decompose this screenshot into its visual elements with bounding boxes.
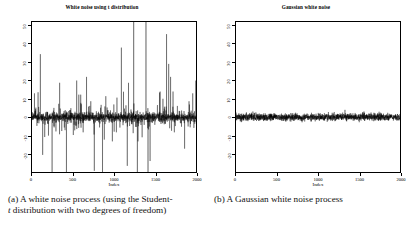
figure-two-panel: White noise using t distribution 5040302… (0, 0, 408, 234)
y-tick-label: 20 (24, 80, 29, 85)
y-tick-label: -10 (24, 135, 29, 141)
caption-a-line2: distribution with two degrees of freedom… (11, 205, 167, 215)
x-axis-title-a: Index (31, 182, 197, 188)
caption-b: (b) A Gaussian white noise process (214, 194, 406, 205)
y-tick-label: 30 (228, 61, 233, 66)
caption-a: (a) A white noise process (using the Stu… (8, 194, 200, 217)
plot-title-a: White noise using t distribution (0, 4, 204, 11)
y-tick-label: 10 (228, 98, 233, 103)
panel-a-white-noise-t: White noise using t distribution 5040302… (0, 0, 204, 234)
y-tick-label: 50 (24, 24, 29, 29)
x-tick-mark (401, 173, 402, 176)
y-axis-b: 50403020100-10-20 (204, 21, 235, 173)
series-line-a (32, 22, 196, 172)
series-path (236, 110, 400, 122)
x-tick-mark (73, 173, 74, 176)
x-tick-mark (156, 173, 157, 176)
y-tick-label: 0 (24, 117, 29, 119)
x-tick-mark (318, 173, 319, 176)
x-tick-mark (31, 173, 32, 176)
y-tick-label: -20 (228, 154, 233, 160)
y-tick-label: 10 (24, 98, 29, 103)
x-tick-mark (114, 173, 115, 176)
plot-title-b: Gaussian white noise (204, 4, 408, 11)
y-tick-label: 0 (228, 117, 233, 119)
plot-area-a (31, 21, 197, 173)
y-tick-label: 50 (228, 24, 233, 29)
caption-a-line1: (a) A white noise process (using the Stu… (8, 194, 173, 204)
x-axis-title-b: Index (235, 182, 401, 188)
y-tick-label: 20 (228, 80, 233, 85)
x-tick-mark (360, 173, 361, 176)
x-tick-mark (197, 173, 198, 176)
caption-b-line1: (b) A Gaussian white noise process (214, 194, 343, 204)
y-tick-label: -10 (228, 135, 233, 141)
plot-area-b (235, 21, 401, 173)
x-tick-mark (235, 173, 236, 176)
series-path (32, 22, 196, 172)
y-tick-label: 40 (24, 43, 29, 48)
series-line-b (236, 22, 400, 172)
y-tick-label: 40 (228, 43, 233, 48)
y-tick-label: 30 (24, 61, 29, 66)
y-axis-a: 50403020100-10-20 (0, 21, 31, 173)
panel-b-gaussian-white-noise: Gaussian white noise 50403020100-10-20 0… (204, 0, 408, 234)
y-tick-label: -20 (24, 154, 29, 160)
x-tick-mark (277, 173, 278, 176)
